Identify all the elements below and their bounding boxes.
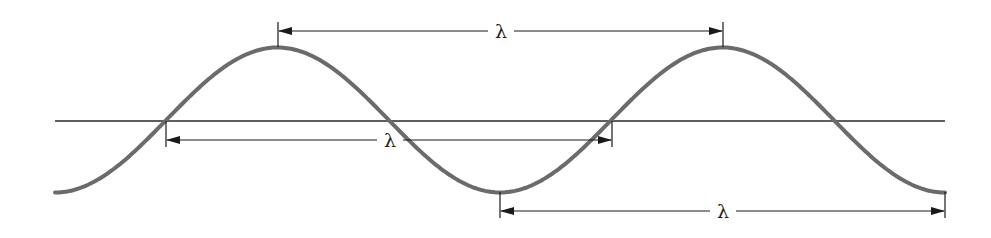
sine-wave bbox=[55, 48, 945, 193]
crossing-to-crossing-dimension: λ bbox=[166, 121, 612, 151]
wavelength-label-middle: λ bbox=[384, 129, 396, 151]
crest-to-crest-dimension: λ bbox=[278, 20, 723, 47]
trough-to-trough-dimension: λ bbox=[500, 192, 945, 222]
wavelength-diagram: λ λ λ bbox=[0, 0, 991, 238]
wavelength-label-top: λ bbox=[495, 20, 507, 42]
wavelength-label-bottom: λ bbox=[717, 200, 729, 222]
